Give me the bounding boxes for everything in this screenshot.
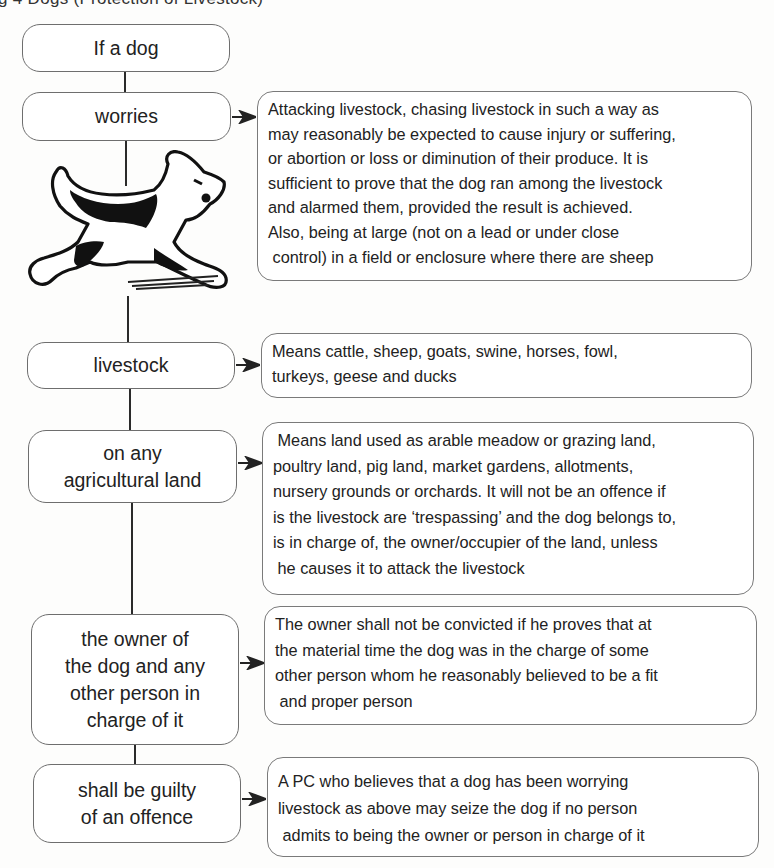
description-worries: Attacking livestock, chasing livestock i… — [257, 91, 752, 281]
connector-line — [127, 296, 129, 342]
node-label-line: the dog and any — [65, 653, 205, 680]
description-owner: The owner shall not be convicted if he p… — [264, 606, 757, 725]
description-agricultural-land: Means land used as arable meadow or graz… — [262, 422, 754, 595]
flow-node-worries: worries — [22, 92, 231, 141]
node-label-line: other person in — [70, 680, 200, 707]
flow-node-owner: the owner of the dog and any other perso… — [31, 614, 239, 745]
node-label-line: charge of it — [87, 707, 183, 734]
node-label: worries — [95, 103, 158, 130]
node-label: If a dog — [93, 35, 158, 62]
flow-node-guilty: shall be guilty of an offence — [33, 764, 241, 843]
description-line: the material time the dog was in the cha… — [275, 638, 746, 664]
description-line: The owner shall not be convicted if he p… — [275, 612, 746, 638]
description-line: control) in a field or enclosure where t… — [268, 245, 741, 270]
arrow-right-icon — [240, 656, 264, 670]
node-label-line: shall be guilty — [78, 777, 196, 804]
description-line: livestock as above may seize the dog if … — [278, 795, 748, 822]
cropped-page-heading: g 4 Dogs (Protection of Livestock) — [0, 0, 263, 9]
description-line: is in charge of, the owner/occupier of t… — [273, 530, 743, 556]
running-terrier-dog-icon — [18, 150, 238, 300]
description-livestock: Means cattle, sheep, goats, swine, horse… — [261, 333, 752, 398]
description-line: or abortion or loss or diminution of the… — [268, 146, 741, 171]
connector-line — [124, 72, 126, 92]
description-line: admits to being the owner or person in c… — [278, 822, 748, 849]
connector-line — [129, 389, 131, 430]
description-guilty: A PC who believes that a dog has been wo… — [267, 757, 759, 857]
node-label: livestock — [94, 352, 169, 379]
description-line: poultry land, pig land, market gardens, … — [273, 454, 743, 480]
node-label-line: the owner of — [81, 626, 188, 653]
description-line: Means land used as arable meadow or graz… — [273, 428, 743, 454]
arrow-right-icon — [236, 358, 260, 372]
node-label-line: of an offence — [81, 804, 193, 831]
description-line: Means cattle, sheep, goats, swine, horse… — [272, 339, 741, 364]
connector-line — [134, 745, 136, 764]
node-label-line: agricultural land — [64, 467, 202, 494]
description-line: Attacking livestock, chasing livestock i… — [268, 97, 741, 122]
flow-node-if-a-dog: If a dog — [22, 24, 230, 72]
description-line: is the livestock are ‘trespassing’ and t… — [273, 505, 743, 531]
description-line: A PC who believes that a dog has been wo… — [278, 768, 748, 795]
description-line: nursery grounds or orchards. It will not… — [273, 479, 743, 505]
arrow-right-icon — [238, 456, 262, 470]
description-line: other person whom he reasonably believed… — [275, 663, 746, 689]
description-line: he causes it to attack the livestock — [273, 556, 743, 582]
node-label-line: on any — [103, 440, 162, 467]
flow-node-agricultural-land: on any agricultural land — [28, 430, 237, 503]
description-line: turkeys, geese and ducks — [272, 364, 741, 389]
description-line: and alarmed them, provided the result is… — [268, 195, 741, 220]
arrow-right-icon — [242, 792, 266, 806]
description-line: Also, being at large (not on a lead or u… — [268, 220, 741, 245]
flow-node-livestock: livestock — [27, 342, 235, 389]
connector-line — [131, 503, 133, 614]
description-line: may reasonably be expected to cause inju… — [268, 122, 741, 147]
description-line: sufficient to prove that the dog ran amo… — [268, 171, 741, 196]
arrow-right-icon — [232, 110, 256, 124]
description-line: and proper person — [275, 689, 746, 715]
